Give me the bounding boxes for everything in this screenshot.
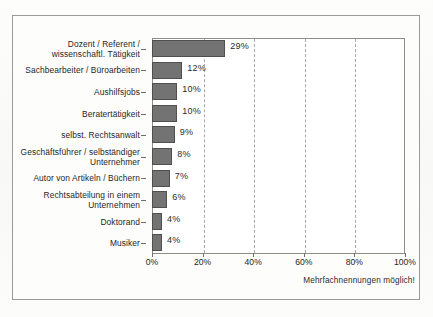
x-tick-label: 60% bbox=[295, 257, 312, 267]
category-tick-mark bbox=[141, 157, 146, 158]
bar-value-label: 12% bbox=[187, 63, 206, 73]
bar-value-label: 8% bbox=[177, 149, 190, 159]
category-label: Sachbearbeiter / Büroarbeiten bbox=[12, 65, 140, 75]
x-tick-label: 0% bbox=[146, 257, 158, 267]
x-tick-label: 40% bbox=[245, 257, 262, 267]
category-label: Autor von Artikeln / Büchern bbox=[12, 173, 140, 183]
x-tick-label: 80% bbox=[346, 257, 363, 267]
chart-figure: Dozent / Referent /wissenschaftl. Tätigk… bbox=[0, 0, 433, 317]
x-axis-tick-labels: 0%20%40%60%80%100% bbox=[152, 257, 405, 271]
bar bbox=[152, 40, 225, 57]
category-label: selbst. Rechtsanwalt bbox=[12, 130, 140, 140]
bar-row: 10% bbox=[152, 81, 405, 103]
bar-row: 10% bbox=[152, 103, 405, 125]
bar bbox=[152, 126, 175, 143]
category-label: Doktorand bbox=[12, 217, 140, 227]
bar bbox=[152, 62, 182, 79]
category-tick-mark bbox=[141, 70, 146, 71]
bar-value-label: 10% bbox=[182, 106, 201, 116]
bar-row: 12% bbox=[152, 60, 405, 82]
category-tick-mark bbox=[141, 92, 146, 93]
bar-row: 8% bbox=[152, 146, 405, 168]
x-tick-label: 100% bbox=[394, 257, 416, 267]
bar bbox=[152, 191, 167, 208]
bar-value-label: 4% bbox=[167, 235, 180, 245]
bar-value-label: 9% bbox=[180, 127, 193, 137]
category-label: Beratertätigkeit bbox=[12, 109, 140, 119]
category-label: Musiker bbox=[12, 238, 140, 248]
bar-row: 9% bbox=[152, 124, 405, 146]
category-label: Dozent / Referent /wissenschaftl. Tätigk… bbox=[12, 39, 140, 59]
bar-row: 6% bbox=[152, 189, 405, 211]
bar bbox=[152, 105, 177, 122]
category-tick-mark bbox=[141, 178, 146, 179]
bar bbox=[152, 148, 172, 165]
bar-row: 4% bbox=[152, 232, 405, 254]
bar-value-label: 29% bbox=[230, 41, 249, 51]
bar bbox=[152, 213, 162, 230]
bar bbox=[152, 234, 162, 251]
category-axis-labels: Dozent / Referent /wissenschaftl. Tätigk… bbox=[12, 38, 146, 254]
bar bbox=[152, 83, 177, 100]
category-tick-mark bbox=[141, 114, 146, 115]
x-tick-label: 20% bbox=[194, 257, 211, 267]
chart-footnote: Mehrfachnennungen möglich! bbox=[303, 276, 415, 285]
category-tick-mark bbox=[141, 222, 146, 223]
bar-value-label: 4% bbox=[167, 214, 180, 224]
category-tick-mark bbox=[141, 200, 146, 201]
category-tick-mark bbox=[141, 243, 146, 244]
bar-row: 4% bbox=[152, 211, 405, 233]
bar-value-label: 10% bbox=[182, 84, 201, 94]
category-tick-mark bbox=[141, 135, 146, 136]
category-label: Geschäftsführer / selbständigerUnternehm… bbox=[12, 147, 140, 167]
bar bbox=[152, 170, 170, 187]
bar-value-label: 7% bbox=[175, 171, 188, 181]
category-tick-mark bbox=[141, 49, 146, 50]
category-label: Aushilfsjobs bbox=[12, 87, 140, 97]
bar-row: 29% bbox=[152, 38, 405, 60]
bar-value-label: 6% bbox=[172, 192, 185, 202]
category-label: Rechtsabteilung in einemUnternehmen bbox=[12, 190, 140, 210]
bar-row: 7% bbox=[152, 168, 405, 190]
bars-layer: 29%12%10%10%9%8%7%6%4%4% bbox=[152, 38, 405, 254]
